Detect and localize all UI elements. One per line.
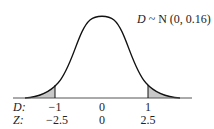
normal-distribution-chart: D ~ N (0, 0.16) D: Z: −1 0 1 −2.5 0 2.5 [0,0,214,129]
z-tick-neg2-5: −2.5 [46,113,68,127]
bell-curve [25,16,180,98]
z-tick-0: 0 [99,113,105,127]
d-tick-1: 1 [145,100,151,114]
left-tail-shade [25,86,55,98]
right-tail-shade [148,86,180,98]
z-axis-label: Z: [13,113,24,127]
d-tick-0: 0 [99,100,105,114]
z-tick-2-5: 2.5 [141,113,156,127]
d-axis-label: D: [12,100,26,114]
d-tick-neg1: −1 [49,100,62,114]
distribution-annotation: D ~ N (0, 0.16) [136,12,211,26]
